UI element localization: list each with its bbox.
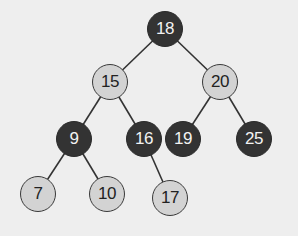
tree-node-7: 7	[20, 176, 56, 212]
tree-node-17: 17	[152, 180, 188, 216]
tree-node-18: 18	[147, 11, 183, 47]
tree-node-15: 15	[92, 64, 128, 100]
tree-node-9: 9	[56, 121, 92, 157]
red-black-tree-diagram: 18 15 20 9 16 19 25 7 10 17	[0, 0, 298, 236]
tree-node-20: 20	[202, 64, 238, 100]
tree-node-16: 16	[126, 121, 162, 157]
tree-node-10: 10	[89, 176, 125, 212]
tree-node-25: 25	[236, 121, 272, 157]
tree-node-19: 19	[165, 121, 201, 157]
